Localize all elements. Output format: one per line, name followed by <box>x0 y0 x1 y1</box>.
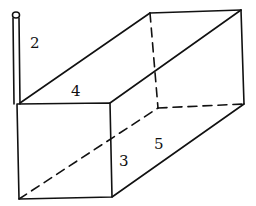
pipe <box>13 12 21 104</box>
top-left-edge <box>20 13 150 103</box>
front-width-label: 4 <box>71 82 81 100</box>
hidden-edges <box>19 13 244 199</box>
diagram-canvas: 2 4 3 5 <box>0 0 256 206</box>
pipe-height-label: 2 <box>30 34 40 52</box>
top-right-edge <box>110 10 241 103</box>
top-back-edge <box>150 10 241 13</box>
prism-figure: 2 4 3 5 <box>0 0 256 206</box>
depth-label: 5 <box>154 135 164 153</box>
height-label: 3 <box>119 152 129 170</box>
back-right-vertical-edge <box>241 10 244 104</box>
bottom-right-edge <box>112 104 244 197</box>
front-face <box>17 103 112 199</box>
